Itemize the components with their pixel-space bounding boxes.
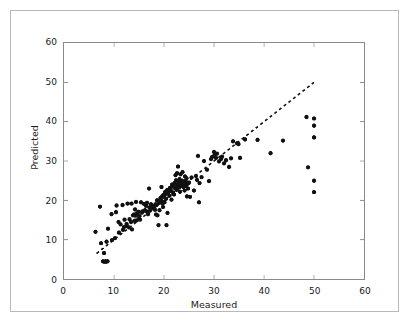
y-tick-label: 60 bbox=[29, 38, 57, 47]
x-tick-label: 40 bbox=[259, 287, 270, 296]
x-tick-label: 10 bbox=[108, 287, 119, 296]
x-tick-label: 20 bbox=[158, 287, 169, 296]
y-tick-label: 50 bbox=[29, 77, 57, 86]
x-tick-label: 50 bbox=[309, 287, 320, 296]
y-tick-label: 30 bbox=[29, 157, 57, 166]
x-axis-label: Measured bbox=[63, 299, 365, 310]
figure-container: Measured Predicted 010203040506001020304… bbox=[0, 0, 411, 324]
scatter-canvas bbox=[64, 43, 364, 279]
y-tick-label: 40 bbox=[29, 117, 57, 126]
y-tick-label: 20 bbox=[29, 196, 57, 205]
y-tick-label: 0 bbox=[29, 276, 57, 285]
plot-area bbox=[63, 42, 365, 280]
x-tick-label: 60 bbox=[359, 287, 370, 296]
y-tick-label: 10 bbox=[29, 236, 57, 245]
x-tick-label: 30 bbox=[208, 287, 219, 296]
x-tick-label: 0 bbox=[60, 287, 66, 296]
y-axis-label: Predicted bbox=[29, 93, 40, 203]
